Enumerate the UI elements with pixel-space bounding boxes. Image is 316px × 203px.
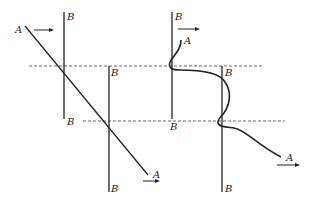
left-label-A-end: A	[152, 169, 160, 180]
right-curve-A	[169, 40, 281, 157]
left-label-B1-top: B	[66, 11, 74, 22]
left-panel: A B B B B A	[14, 11, 160, 194]
left-label-A-start: A	[14, 24, 22, 35]
left-label-B2-top: B	[110, 67, 118, 78]
diagram-canvas: A B B B B A B A B B A B	[0, 0, 316, 203]
right-label-B1-top: B	[174, 11, 182, 22]
arrow-right-icon	[178, 27, 200, 31]
left-line-A	[25, 26, 148, 175]
right-label-A-end: A	[285, 152, 293, 163]
left-label-B2-bottom: B	[110, 183, 118, 194]
left-label-B1-bottom: B	[66, 116, 74, 127]
right-panel: B A B B A B	[169, 11, 300, 194]
right-label-B2-bottom: B	[224, 183, 232, 194]
right-label-A-start: A	[183, 35, 191, 46]
right-label-B2-top: B	[224, 67, 232, 78]
arrow-right-icon	[277, 163, 300, 167]
arrow-right-icon	[34, 28, 54, 32]
right-label-B1-bottom: B	[169, 121, 177, 132]
